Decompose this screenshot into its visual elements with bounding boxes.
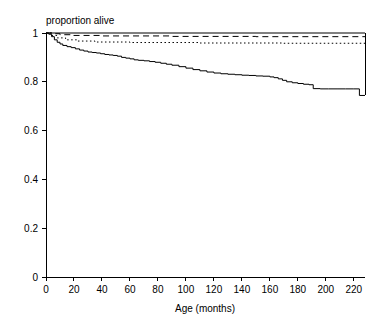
x-tick-label: 20	[68, 284, 80, 295]
x-tick-label: 200	[317, 284, 334, 295]
x-tick-label: 80	[152, 284, 164, 295]
y-tick-label: 0	[32, 272, 38, 283]
series-group-3-dotted	[46, 33, 365, 43]
y-tick-label: 0.2	[24, 223, 38, 234]
y-axis: 00.20.40.60.81	[24, 28, 46, 283]
x-tick-label: 100	[178, 284, 195, 295]
series-group-2-dashed	[46, 33, 365, 37]
data-series-group	[46, 33, 365, 95]
survival-curve-chart: proportion alive 00.20.40.60.81 02040608…	[0, 0, 386, 326]
series-group-4-solid-lower	[46, 33, 365, 95]
x-tick-label: 60	[124, 284, 136, 295]
x-axis-ticks: 020406080100120140160180200220	[43, 277, 362, 295]
y-tick-label: 0.4	[24, 174, 38, 185]
x-tick-label: 180	[289, 284, 306, 295]
x-tick-label: 0	[43, 284, 49, 295]
x-axis-label: Age (months)	[175, 303, 235, 314]
x-tick-label: 120	[206, 284, 223, 295]
y-tick-label: 0.8	[24, 76, 38, 87]
x-tick-label: 40	[96, 284, 108, 295]
x-axis: 020406080100120140160180200220	[43, 277, 365, 295]
page-title: proportion alive	[46, 15, 115, 26]
x-tick-label: 220	[345, 284, 362, 295]
y-tick-label: 0.6	[24, 125, 38, 136]
y-tick-label: 1	[32, 28, 38, 39]
x-tick-label: 160	[262, 284, 279, 295]
y-axis-ticks: 00.20.40.60.81	[24, 28, 46, 283]
x-tick-label: 140	[234, 284, 251, 295]
chart-container: proportion alive 00.20.40.60.81 02040608…	[0, 0, 386, 326]
